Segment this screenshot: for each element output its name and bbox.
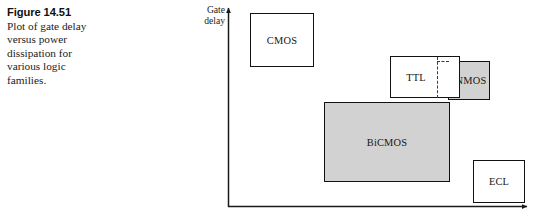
caption-line: Plot of gate delay [7, 20, 103, 33]
plot-area: Gate delay CMOS NMOS TTL [195, 0, 541, 218]
nmos-hidden-top-dashed [437, 61, 449, 62]
region-box-ecl[interactable]: ECL [473, 160, 525, 203]
caption-line: families. [7, 74, 103, 87]
region-box-cmos[interactable]: CMOS [250, 13, 314, 67]
figure-caption: Figure 14.51 Plot of gate delay versus p… [7, 6, 103, 87]
figure-container: Figure 14.51 Plot of gate delay versus p… [0, 0, 541, 218]
figure-number: Figure 14.51 [7, 6, 103, 19]
caption-line: various logic [7, 60, 103, 73]
region-label-ttl: TTL [406, 72, 426, 83]
region-label-bicmos: BiCMOS [367, 137, 407, 148]
caption-line: versus power [7, 33, 103, 46]
region-label-ecl: ECL [489, 176, 509, 187]
region-box-bicmos[interactable]: BiCMOS [324, 102, 450, 182]
nmos-hidden-edge-dashed [437, 57, 438, 98]
region-box-ttl[interactable]: TTL [390, 56, 460, 98]
region-label-cmos: CMOS [267, 35, 297, 46]
caption-line: dissipation for [7, 47, 103, 60]
region-label-nmos: NMOS [456, 75, 487, 86]
figure-caption-text: Plot of gate delay versus power dissipat… [7, 20, 103, 87]
